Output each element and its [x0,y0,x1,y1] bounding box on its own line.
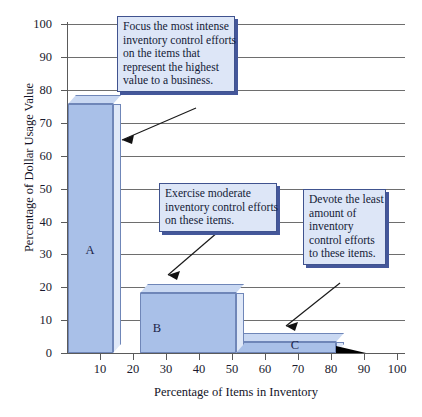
abc-analysis-chart: C B A 100 90 80 70 60 50 40 30 20 10 0 1… [0,0,422,417]
callout-a-line-3: on the items that [123,47,229,61]
callout-c-line-2: amount of [309,207,380,221]
callout-c-line-4: control efforts [309,234,380,248]
callout-a-line-5: value to a business. [123,74,229,88]
callout-b-line-1: Exercise moderate [165,187,271,201]
callout-c-line-5: to these items. [309,247,380,261]
callout-c-line-3: inventory [309,220,380,234]
callout-c-line-1: Devote the least [309,193,380,207]
callout-focus-most-intense[interactable]: Focus the most intense inventory control… [117,16,235,92]
callout-devote-the-least[interactable]: Devote the least amount of inventory con… [303,189,386,265]
callout-a-line-2: inventory control efforts [123,34,229,48]
callout-b-line-3: on these items. [165,214,271,228]
callout-a-line-1: Focus the most intense [123,20,229,34]
callout-b-line-2: inventory control efforts [165,201,271,215]
callout-exercise-moderate[interactable]: Exercise moderate inventory control effo… [159,183,277,232]
callout-a-line-4: represent the highest [123,61,229,75]
